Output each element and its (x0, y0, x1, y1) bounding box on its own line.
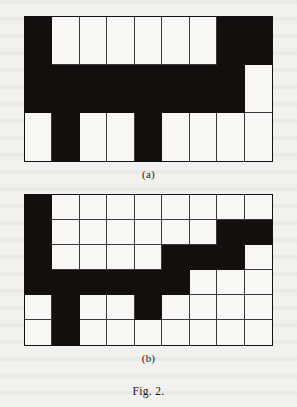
grid-a-cell-r1-c6 (162, 17, 190, 65)
grid-b-cell-r3-c8 (217, 245, 245, 270)
grid-a-cell-r3-c1 (25, 113, 53, 161)
grid-b-cell-r5-c2 (52, 295, 80, 320)
grid-a-cell-r3-c9 (245, 113, 273, 161)
grid-b-cell-r6-c7 (190, 320, 218, 345)
grid-b-cell-r6-c4 (107, 320, 135, 345)
grid-a-cell-r1-c1 (25, 17, 53, 65)
binary-grid-a (24, 16, 274, 162)
grid-b-cell-r2-c4 (107, 220, 135, 245)
grid-b-cell-r3-c1 (25, 245, 53, 270)
grid-b-cell-r4-c7 (190, 270, 218, 295)
binary-grid-b (24, 194, 274, 346)
grid-b-cell-r4-c2 (52, 270, 80, 295)
grid-a-cell-r1-c3 (80, 17, 108, 65)
grid-a-cell-r3-c6 (162, 113, 190, 161)
panel-b: (b) (0, 194, 297, 364)
grid-a-cell-r3-c3 (80, 113, 108, 161)
grid-b-cell-r5-c8 (217, 295, 245, 320)
grid-b-cell-r1-c3 (80, 195, 108, 220)
figure-2: (a) (b) Fig. 2. (0, 0, 297, 407)
grid-b-cell-r1-c4 (107, 195, 135, 220)
grid-b-cell-r1-c8 (217, 195, 245, 220)
grid-a-cell-r1-c7 (190, 17, 218, 65)
grid-b-cell-r5-c9 (245, 295, 273, 320)
grid-b-cell-r6-c8 (217, 320, 245, 345)
grid-b-cell-r3-c7 (190, 245, 218, 270)
panel-b-caption: (b) (0, 352, 297, 364)
grid-b-cell-r2-c6 (162, 220, 190, 245)
grid-a-cell-r1-c8 (217, 17, 245, 65)
grid-b-cell-r6-c1 (25, 320, 53, 345)
panel-a: (a) (0, 16, 297, 180)
grid-b-cell-r5-c3 (80, 295, 108, 320)
grid-b-cell-r1-c2 (52, 195, 80, 220)
grid-b-cell-r5-c6 (162, 295, 190, 320)
grid-a-cell-r1-c9 (245, 17, 273, 65)
grid-b-cell-r6-c2 (52, 320, 80, 345)
grid-b-cell-r6-c9 (245, 320, 273, 345)
grid-b-cell-r6-c5 (135, 320, 163, 345)
grid-a-cell-r3-c4 (107, 113, 135, 161)
grid-a-cell-r2-c4 (107, 65, 135, 113)
grid-b-cell-r2-c7 (190, 220, 218, 245)
grid-b-cell-r4-c5 (135, 270, 163, 295)
grid-b-cell-r4-c3 (80, 270, 108, 295)
grid-a-cell-r3-c5 (135, 113, 163, 161)
grid-b-cell-r2-c8 (217, 220, 245, 245)
grid-b-cell-r1-c1 (25, 195, 53, 220)
grid-b-cell-r4-c1 (25, 270, 53, 295)
grid-a-cell-r1-c2 (52, 17, 80, 65)
grid-b-cell-r6-c3 (80, 320, 108, 345)
grid-b-cell-r4-c8 (217, 270, 245, 295)
grid-b-cell-r3-c5 (135, 245, 163, 270)
grid-b-cell-r2-c1 (25, 220, 53, 245)
grid-a-cell-r1-c5 (135, 17, 163, 65)
grid-b-cell-r3-c2 (52, 245, 80, 270)
grid-b-cell-r1-c7 (190, 195, 218, 220)
grid-a-cell-r2-c6 (162, 65, 190, 113)
grid-b-cell-r1-c6 (162, 195, 190, 220)
grid-b-cell-r1-c9 (245, 195, 273, 220)
grid-b-cell-r5-c7 (190, 295, 218, 320)
grid-a-cell-r2-c2 (52, 65, 80, 113)
grid-a-cell-r2-c7 (190, 65, 218, 113)
grid-b-cell-r2-c3 (80, 220, 108, 245)
grid-a-cell-r2-c8 (217, 65, 245, 113)
grid-b-cell-r2-c2 (52, 220, 80, 245)
grid-a-cell-r2-c5 (135, 65, 163, 113)
grid-a-cell-r2-c9 (245, 65, 273, 113)
grid-b-cell-r5-c5 (135, 295, 163, 320)
grid-b-cell-r3-c3 (80, 245, 108, 270)
grid-a-cell-r3-c2 (52, 113, 80, 161)
grid-b-cell-r1-c5 (135, 195, 163, 220)
grid-b-cell-r4-c9 (245, 270, 273, 295)
grid-b-cell-r2-c9 (245, 220, 273, 245)
grid-a-cell-r1-c4 (107, 17, 135, 65)
grid-b-cell-r3-c9 (245, 245, 273, 270)
panel-a-caption: (a) (0, 168, 297, 180)
panel-b-grid-wrap (0, 194, 297, 346)
grid-b-cell-r3-c6 (162, 245, 190, 270)
grid-b-cell-r5-c1 (25, 295, 53, 320)
grid-a-cell-r3-c7 (190, 113, 218, 161)
grid-b-cell-r6-c6 (162, 320, 190, 345)
grid-a-cell-r2-c1 (25, 65, 53, 113)
panel-a-grid-wrap (0, 16, 297, 162)
grid-b-cell-r4-c6 (162, 270, 190, 295)
grid-b-cell-r4-c4 (107, 270, 135, 295)
grid-b-cell-r2-c5 (135, 220, 163, 245)
grid-b-cell-r3-c4 (107, 245, 135, 270)
figure-label: Fig. 2. (0, 385, 297, 397)
grid-a-cell-r3-c8 (217, 113, 245, 161)
grid-b-cell-r5-c4 (107, 295, 135, 320)
grid-a-cell-r2-c3 (80, 65, 108, 113)
